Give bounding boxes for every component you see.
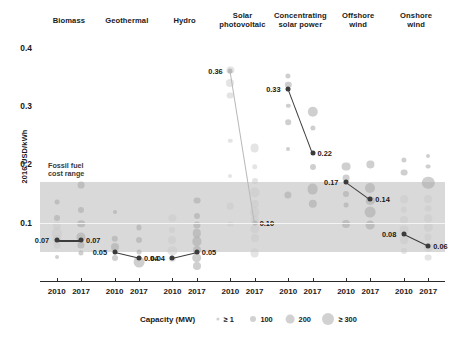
category-header-line1: Onshore — [387, 11, 445, 20]
x-axis-label-2017: 2017 — [64, 287, 98, 296]
data-bubble — [367, 161, 374, 168]
legend-label-200: 200 — [299, 315, 311, 324]
data-bubble — [228, 139, 232, 143]
category-header-hydro: Hydro — [156, 16, 214, 25]
category-header-line1: Geothermal — [98, 16, 156, 25]
data-bubble — [310, 126, 315, 131]
trend-endpoint — [228, 69, 233, 74]
data-bubble — [137, 249, 142, 254]
x-axis-label-2017: 2017 — [122, 287, 156, 296]
x-axis-tick — [288, 278, 289, 282]
value-label-offshore-wind-end: 0.14 — [375, 195, 389, 204]
category-header-geothermal: Geothermal — [98, 16, 156, 25]
data-bubble — [136, 237, 142, 243]
category-header-line1: Offshore — [329, 11, 387, 20]
data-bubble — [424, 214, 432, 222]
category-header-line1: Biomass — [40, 16, 98, 25]
data-bubble — [250, 144, 259, 153]
trend-endpoint — [54, 238, 59, 243]
category-header-line2: wind — [387, 20, 445, 29]
data-bubble — [401, 169, 408, 176]
legend-label-300: ≥ 300 — [338, 315, 356, 324]
data-bubble — [78, 250, 83, 255]
category-header-line1: Concentrating — [271, 11, 329, 20]
x-axis-tick — [428, 278, 429, 282]
trend-endpoint — [79, 238, 84, 243]
data-bubble — [344, 203, 349, 208]
data-bubble — [307, 183, 318, 194]
data-bubble — [252, 178, 258, 184]
data-bubble — [78, 207, 84, 213]
data-bubble — [400, 236, 408, 244]
trend-endpoint — [194, 249, 199, 254]
legend-label-1: ≥ 1 — [224, 315, 234, 324]
data-bubble — [426, 164, 431, 169]
trend-endpoint — [286, 86, 291, 91]
data-bubble — [425, 205, 432, 212]
category-header-biomass: Biomass — [40, 16, 98, 25]
data-bubble — [193, 262, 201, 270]
category-header-line1: Hydro — [156, 16, 214, 25]
x-axis-line — [40, 281, 445, 282]
data-bubble — [250, 249, 259, 258]
data-bubble — [55, 255, 59, 259]
value-label-solar-photovoltaic-start: 0.36 — [208, 67, 222, 76]
data-bubble — [54, 215, 60, 221]
data-bubble — [310, 164, 316, 170]
x-axis-tick — [370, 278, 371, 282]
value-label-hydro-start: 0.04 — [150, 253, 164, 262]
legend-label-100: 100 — [260, 315, 272, 324]
x-axis-label-2017: 2017 — [238, 287, 272, 296]
x-axis-tick — [313, 278, 314, 282]
data-bubble — [251, 234, 259, 242]
value-label-concentrating-solar-power-start: 0.33 — [266, 84, 280, 93]
trend-line-concentrating-solar-power — [288, 89, 314, 154]
data-bubble — [307, 107, 317, 117]
data-bubble — [228, 174, 232, 178]
trend-endpoint — [170, 255, 175, 260]
y-axis-tick-0.2: 0.2 — [4, 159, 32, 169]
trend-line-biomass — [57, 240, 81, 241]
x-axis-tick — [404, 278, 405, 282]
data-bubble — [286, 147, 290, 151]
data-bubble — [343, 191, 349, 197]
y-axis-label: 2016 USD/kWh — [20, 112, 29, 202]
value-label-geothermal-start: 0.05 — [93, 247, 107, 256]
value-label-onshore-wind-start: 0.08 — [382, 230, 396, 239]
data-bubble — [227, 203, 234, 210]
legend-title: Capacity (MW) — [140, 315, 195, 324]
data-bubble — [285, 120, 291, 126]
trend-endpoint — [344, 179, 349, 184]
value-label-biomass-start: 0.07 — [35, 236, 49, 245]
trend-endpoint — [401, 232, 406, 237]
data-bubble — [426, 154, 430, 158]
trend-line-geothermal — [114, 252, 139, 259]
fossil-fuel-cost-band — [40, 182, 445, 252]
x-axis-label-2017: 2017 — [353, 287, 387, 296]
data-bubble — [365, 183, 375, 193]
y-axis-tick-0.1: 0.1 — [4, 218, 32, 228]
value-label-offshore-wind-start: 0.17 — [324, 177, 338, 186]
x-axis-label-2017: 2017 — [296, 287, 330, 296]
legend-bubble-200 — [286, 315, 295, 324]
category-header-offshore-wind: Offshorewind — [329, 11, 387, 29]
value-label-concentrating-solar-power-end: 0.22 — [318, 148, 332, 157]
gridline-0.1 — [40, 223, 445, 224]
legend-bubble-300 — [322, 313, 334, 325]
legend-bubble-1 — [216, 317, 219, 320]
data-bubble — [168, 246, 177, 255]
y-axis-tick-0.4: 0.4 — [4, 43, 32, 53]
data-bubble — [425, 254, 432, 261]
x-axis-tick — [197, 278, 198, 282]
data-bubble — [342, 162, 351, 171]
x-axis-tick — [172, 278, 173, 282]
fossil-band-label-line2: cost range — [48, 170, 84, 179]
x-axis-tick — [115, 278, 116, 282]
trend-endpoint — [368, 197, 373, 202]
trend-endpoint — [112, 249, 117, 254]
data-bubble — [401, 157, 406, 162]
data-bubble — [168, 236, 176, 244]
value-label-onshore-wind-end: 0.06 — [433, 242, 447, 251]
data-bubble — [400, 196, 408, 204]
x-axis-tick — [230, 278, 231, 282]
